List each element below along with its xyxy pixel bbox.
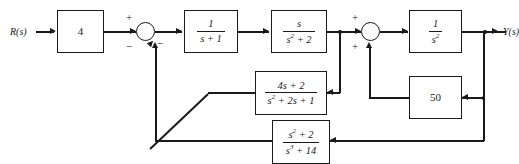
block-gain-50-label: 50: [430, 92, 441, 104]
block-double-integrator-fraction: 1 s2: [429, 18, 443, 45]
block-outer-feedback-fraction: s2 + 2 s3 + 14: [283, 128, 319, 156]
arrowhead-outer-feedback-into-summer1: [152, 42, 158, 48]
arrowhead-into-gain50: [462, 94, 468, 100]
block-lag-numerator: 1: [197, 18, 225, 32]
block-double-integrator-denominator: s2: [429, 32, 443, 45]
wire-gain50-out: [369, 97, 409, 99]
arrowhead-into-inner-feedback: [327, 89, 333, 95]
block-inner-feedback-denominator: s2 + 2s + 1: [265, 93, 318, 106]
wire-gain50-up-to-summer2: [369, 48, 371, 97]
summer-2-sign-input: +: [352, 12, 358, 23]
wire-outer-feedback-out: [155, 140, 272, 142]
block-gain-4: 4: [57, 10, 104, 53]
summer-2-sign-bottom: +: [352, 41, 358, 52]
arrowhead-into-double-integrator: [402, 28, 408, 34]
block-lag-denominator: s + 1: [197, 32, 225, 45]
arrowhead-into-gain4: [50, 28, 56, 34]
block-resonator-numerator: s: [283, 18, 314, 32]
block-lag-fraction: 1 s + 1: [197, 18, 225, 45]
block-outer-feedback-numerator: s2 + 2: [283, 128, 319, 142]
block-inner-feedback-fraction: 4s + 2 s2 + 2s + 1: [265, 80, 318, 107]
block-outer-feedback: s2 + 2 s3 + 14: [272, 120, 330, 164]
summer-1: [136, 22, 155, 41]
summer-2: [361, 22, 380, 41]
block-double-integrator: 1 s2: [409, 10, 462, 53]
block-double-integrator-numerator: 1: [429, 18, 443, 32]
block-resonator-fraction: s s2 + 2: [283, 18, 314, 45]
block-outer-feedback-denominator: s3 + 14: [283, 143, 319, 156]
output-signal-label: Y(s): [503, 26, 519, 37]
block-inner-feedback-numerator: 4s + 2: [265, 80, 318, 94]
block-lag: 1 s + 1: [184, 10, 238, 53]
wire-to-outer-feedback: [330, 140, 484, 142]
arrowhead-gain50-into-summer2: [366, 42, 372, 48]
block-inner-feedback: 4s + 2 s2 + 2s + 1: [255, 71, 327, 115]
block-gain-4-label: 4: [78, 26, 84, 38]
block-resonator: s s2 + 2: [271, 10, 327, 53]
arrowhead-output: [492, 28, 498, 34]
wire-inner-feedback-out: [208, 92, 255, 94]
summer-1-sign-bottom: −: [126, 41, 132, 52]
block-gain-50: 50: [409, 76, 462, 119]
block-resonator-denominator: s2 + 2: [283, 32, 314, 45]
input-signal-label: R(s): [10, 26, 27, 37]
arrowhead-into-outer-feedback: [330, 137, 336, 143]
wire-outer-feedback-up-to-summer1: [155, 48, 157, 140]
arrowhead-into-lag: [176, 28, 182, 34]
wire-resonator-tap-down: [339, 31, 341, 93]
wire-output-tap-down-outer: [483, 31, 485, 141]
summer-1-sign-input: +: [126, 12, 132, 23]
arrowhead-into-resonator: [263, 28, 269, 34]
